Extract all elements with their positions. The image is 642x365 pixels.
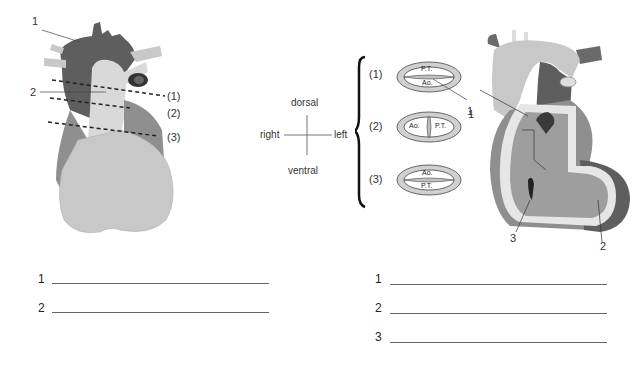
blank-left-1[interactable] — [52, 283, 269, 284]
right-label-1: 1 — [468, 108, 474, 120]
right-label: right — [260, 129, 279, 140]
blank-right-2[interactable] — [390, 313, 607, 314]
section-3-ao: Ao. — [422, 169, 433, 176]
section-2-ao: Ao. — [409, 122, 420, 129]
blank-left-1-number: 1 — [38, 272, 45, 286]
section-3-label: (3) — [167, 131, 180, 143]
section-2-tag: (2) — [369, 120, 382, 132]
label-2: 2 — [30, 86, 36, 98]
section-1-pt: P.T. — [421, 65, 432, 72]
orientation-compass: dorsal ventral right left — [250, 95, 360, 185]
blank-left-2-number: 2 — [38, 301, 45, 315]
dorsal-label: dorsal — [291, 97, 318, 108]
cross-sections-panel: (1) (2) (3) P.T. Ao. Ao. P.T. Ao. P.T. 1 — [355, 55, 485, 215]
blank-right-2-number: 2 — [375, 301, 382, 315]
left-heart-figure: 1 2 (1) (2) (3) — [0, 0, 230, 250]
right-label-3: 3 — [510, 232, 516, 244]
left-label: left — [334, 129, 347, 140]
label-1: 1 — [32, 15, 38, 27]
blank-right-1[interactable] — [390, 284, 607, 285]
section-1-ao: Ao. — [422, 79, 433, 86]
right-heart-figure: 1 2 3 — [480, 20, 642, 250]
section-3-tag: (3) — [369, 173, 382, 185]
section-2-pt: P.T. — [435, 122, 446, 129]
right-label-2: 2 — [600, 240, 606, 252]
blank-right-1-number: 1 — [375, 272, 382, 286]
section-3-pt: P.T. — [421, 182, 432, 189]
section-1-tag: (1) — [369, 68, 382, 80]
section-1-label: (1) — [167, 90, 180, 102]
blank-right-3-number: 3 — [375, 330, 382, 344]
blank-right-3[interactable] — [390, 342, 607, 343]
ventral-label: ventral — [288, 165, 318, 176]
section-2-label: (2) — [167, 107, 180, 119]
blank-left-2[interactable] — [52, 312, 269, 313]
